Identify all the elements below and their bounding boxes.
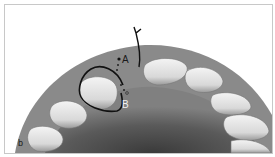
figure-panel: A B b bbox=[4, 4, 273, 154]
point-a-dot bbox=[117, 57, 120, 60]
dot bbox=[116, 69, 118, 71]
dot bbox=[123, 89, 125, 91]
point-label-b: B bbox=[122, 100, 129, 110]
dot bbox=[120, 84, 122, 86]
dot bbox=[117, 64, 119, 66]
dental-arch-illustration bbox=[5, 5, 272, 153]
panel-label: b bbox=[18, 139, 23, 148]
point-label-a: A bbox=[122, 55, 129, 65]
